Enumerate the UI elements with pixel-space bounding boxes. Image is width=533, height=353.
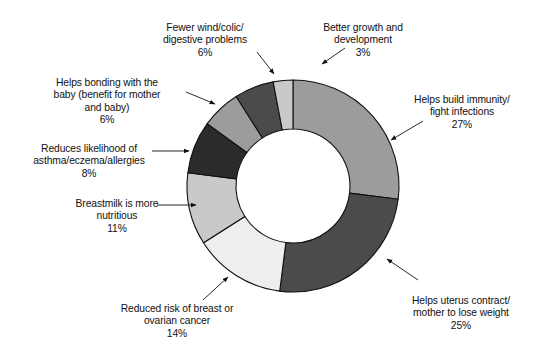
slice-label-growth-pct: 3% [298, 47, 428, 59]
slice-label-growth: Better growth and development 3% [298, 10, 428, 71]
slice-label-asthma-pct: 8% [14, 168, 164, 180]
slice-label-growth-text: Better growth and development [323, 22, 403, 45]
slice-label-immunity-pct: 27% [394, 119, 530, 131]
slice-label-asthma-text: Reduces likelihood of asthma/eczema/alle… [33, 143, 145, 166]
slice-label-uterus-pct: 25% [390, 320, 532, 332]
slice-label-cancer-pct: 14% [98, 328, 256, 340]
slice-label-nutritious-pct: 11% [54, 223, 180, 235]
slice-label-cancer: Reduced risk of breast or ovarian cancer… [98, 291, 256, 352]
slice-label-bonding-text: Helps bonding with the baby (benefit for… [54, 77, 161, 112]
slice-label-uterus: Helps uterus contract/ mother to lose we… [390, 283, 532, 344]
slice-label-wind-text: Fewer wind/colic/ digestive problems [163, 22, 247, 45]
slice-label-asthma: Reduces likelihood of asthma/eczema/alle… [14, 131, 164, 192]
slice-label-immunity-text: Helps build immunity/ fight infections [414, 94, 510, 117]
slice-label-nutritious: Breastmilk is more nutritious 11% [54, 186, 180, 247]
slice-label-bonding: Helps bonding with the baby (benefit for… [28, 65, 186, 138]
slice-label-wind-pct: 6% [134, 47, 276, 59]
slice-label-cancer-text: Reduced risk of breast or ovarian cancer [121, 303, 234, 326]
slice-label-nutritious-text: Breastmilk is more nutritious [76, 198, 159, 221]
slice-label-wind: Fewer wind/colic/ digestive problems 6% [134, 10, 276, 71]
slice-label-uterus-text: Helps uterus contract/ mother to lose we… [412, 295, 510, 318]
slice-label-bonding-pct: 6% [28, 114, 186, 126]
slice-label-immunity: Helps build immunity/ fight infections 2… [394, 82, 530, 143]
